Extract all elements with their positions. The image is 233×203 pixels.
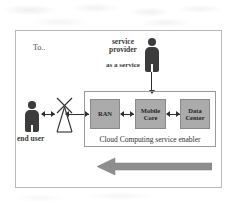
node-mobile-core-label-line1: Mobile: [141, 107, 161, 114]
end-user-person-icon: [24, 101, 40, 132]
person-head: [28, 101, 36, 109]
person-leg-split: [31, 125, 33, 132]
service-provider-label-line2: provider: [109, 45, 137, 54]
node-data-center[interactable]: Data Center: [180, 99, 210, 129]
arrow-left-icon: [65, 111, 69, 117]
node-mobile-core-label-line2: Core: [144, 114, 158, 121]
node-mobile-core[interactable]: Mobile Core: [135, 99, 166, 129]
service-provider-person-icon: [143, 38, 160, 72]
node-data-center-label-line2: Center: [185, 114, 204, 121]
flow-arrow-left-icon: [97, 157, 212, 176]
node-mobile-core-label: Mobile Core: [141, 107, 161, 122]
arrow-left-icon: [120, 111, 124, 117]
arrow-right-icon: [51, 111, 55, 117]
as-a-service-label: as a service: [99, 62, 147, 69]
end-user-label: end user: [17, 135, 44, 143]
node-data-center-label-line1: Data: [188, 107, 201, 114]
person-head: [148, 38, 156, 46]
service-provider-label: service provider: [100, 38, 146, 54]
node-ran-label: RAN: [98, 110, 112, 117]
arrow-left-icon: [41, 111, 45, 117]
node-data-center-label: Data Center: [185, 107, 204, 122]
person-leg-split: [151, 64, 153, 72]
note-to-label: To..: [33, 44, 45, 52]
cloud-container-label: Cloud Computing service enabler: [85, 135, 215, 144]
arrow-right-icon: [130, 111, 134, 117]
arrow-right-icon: [176, 111, 180, 117]
node-ran[interactable]: RAN: [90, 99, 120, 129]
arrow-left-icon: [166, 111, 170, 117]
